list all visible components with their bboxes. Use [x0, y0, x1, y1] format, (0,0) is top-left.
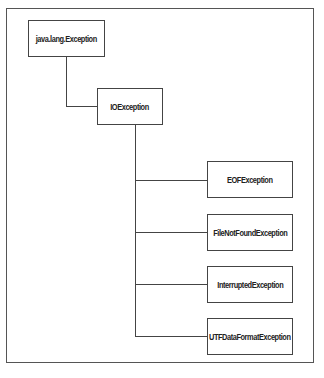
node-label: java.lang.Exception [36, 34, 97, 44]
node-java-lang-exception: java.lang.Exception [28, 20, 105, 57]
node-eofexception: EOFException [207, 161, 293, 198]
node-label: FileNotFoundException [213, 228, 287, 238]
connector-interrupted [135, 284, 207, 285]
node-label: UTFDataFormatException [209, 332, 291, 342]
connector-eof [135, 180, 207, 181]
connector-root-to-io [66, 106, 97, 107]
node-label: InterruptedException [217, 280, 283, 290]
node-utfdataformatexception: UTFDataFormatException [207, 318, 293, 355]
node-filenotfoundexception: FileNotFoundException [207, 214, 293, 251]
node-label: IOException [111, 102, 150, 112]
connector-filenotfound [135, 232, 207, 233]
connector-io-trunk [135, 125, 136, 337]
connector-root-down [66, 56, 67, 107]
node-label: EOFException [227, 175, 273, 185]
connector-utf [135, 336, 207, 337]
node-ioexception: IOException [97, 88, 163, 125]
node-interruptedexception: InterruptedException [207, 266, 293, 303]
